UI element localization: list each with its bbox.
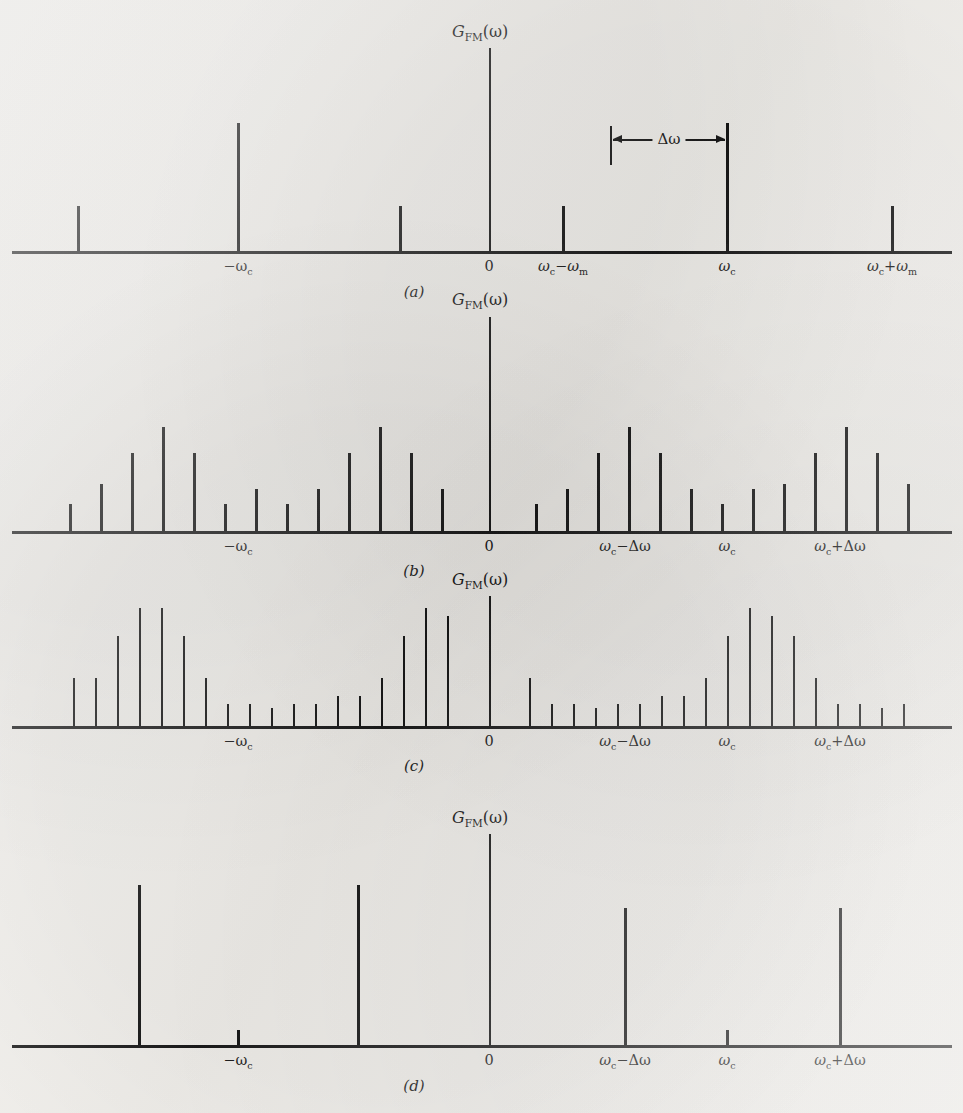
spectral-line bbox=[845, 427, 848, 531]
panel-c-baseline-axis bbox=[12, 726, 952, 729]
spectral-line bbox=[131, 453, 134, 531]
panel-b-baseline-axis bbox=[12, 531, 952, 534]
panel-a-vertical-axis bbox=[489, 48, 491, 253]
spectral-line bbox=[425, 608, 427, 726]
spectral-line bbox=[69, 504, 72, 531]
panel-b-spectrum: GFM(ω) −ωc 0 ωc−Δω ωc ωc+Δω (b) bbox=[0, 290, 963, 570]
panel-c-caption: (c) bbox=[404, 757, 424, 775]
panel-d-vertical-axis bbox=[489, 834, 491, 1047]
spectral-line bbox=[224, 504, 227, 531]
xtick-label-omega-c: ωc bbox=[718, 733, 735, 752]
spectral-line bbox=[73, 678, 75, 726]
xtick-label-omega-c-plus-delta: ωc+Δω bbox=[814, 1052, 866, 1071]
xtick-label-omega-c-minus-delta: ωc−Δω bbox=[599, 733, 651, 752]
spectral-line bbox=[227, 704, 229, 726]
spectral-line bbox=[814, 453, 817, 531]
xtick-label-omega-c-plus-omega-m: ωc+ωm bbox=[867, 258, 917, 277]
spectral-line bbox=[379, 427, 382, 531]
axis-tick bbox=[562, 244, 564, 253]
xtick-label-zero: 0 bbox=[484, 258, 493, 274]
measure-label: Δω bbox=[652, 130, 685, 148]
spectral-line bbox=[410, 453, 413, 531]
spectral-line bbox=[205, 678, 207, 726]
xtick-label-omega-c-minus-delta: ωc−Δω bbox=[599, 538, 651, 557]
spectral-line bbox=[95, 678, 97, 726]
spectral-line bbox=[529, 678, 531, 726]
spectral-line bbox=[403, 636, 405, 726]
panel-b-vertical-axis bbox=[489, 317, 491, 533]
spectral-line bbox=[162, 427, 165, 531]
spectral-line bbox=[783, 484, 786, 531]
spectral-line bbox=[183, 636, 185, 726]
spectral-line bbox=[293, 704, 295, 726]
spectral-line bbox=[359, 696, 361, 726]
spectral-line bbox=[139, 608, 141, 726]
spectral-line bbox=[161, 608, 163, 726]
xtick-label-zero: 0 bbox=[484, 1052, 493, 1068]
spectral-line bbox=[271, 708, 273, 726]
axis-tick bbox=[891, 244, 893, 253]
spectral-line bbox=[441, 489, 444, 531]
xtick-label-minus-omega-c: −ωc bbox=[223, 258, 252, 277]
spectral-line bbox=[317, 489, 320, 531]
panel-d-y-axis-label: GFM(ω) bbox=[452, 808, 508, 829]
spectral-line bbox=[815, 678, 817, 726]
spectral-line bbox=[859, 704, 861, 726]
xtick-label-minus-omega-c: −ωc bbox=[223, 538, 252, 557]
spectral-line bbox=[727, 636, 729, 726]
spectral-line bbox=[357, 885, 360, 1045]
xtick-label-omega-c-minus-delta: ωc−Δω bbox=[599, 1052, 651, 1071]
spectral-line bbox=[705, 678, 707, 726]
axis-tick bbox=[237, 244, 239, 253]
spectral-line bbox=[573, 704, 575, 726]
spectral-line bbox=[726, 123, 729, 251]
xtick-label-omega-c: ωc bbox=[718, 258, 735, 277]
spectral-line bbox=[249, 704, 251, 726]
xtick-label-minus-omega-c: −ωc bbox=[223, 733, 252, 752]
xtick-label-zero: 0 bbox=[484, 733, 493, 749]
panel-d-caption: (d) bbox=[403, 1077, 424, 1095]
panel-b-y-axis-label: GFM(ω) bbox=[452, 290, 508, 311]
spectral-line bbox=[793, 636, 795, 726]
spectral-line bbox=[749, 608, 751, 726]
xtick-label-omega-c-plus-delta: ωc+Δω bbox=[814, 733, 866, 752]
spectral-line bbox=[617, 704, 619, 726]
spectral-line bbox=[721, 504, 724, 531]
spectral-line bbox=[624, 908, 627, 1045]
spectral-line bbox=[661, 696, 663, 726]
axis-tick bbox=[77, 244, 79, 253]
spectral-line bbox=[881, 708, 883, 726]
measure-arrowhead-right bbox=[716, 135, 725, 143]
panel-a-spectrum: GFM(ω) Δω −ωc 0 ωc−ωm ωc ωc+ωm (a) bbox=[0, 0, 963, 290]
spectral-line bbox=[639, 704, 641, 726]
spectral-line bbox=[907, 484, 910, 531]
spectral-line bbox=[659, 453, 662, 531]
panel-d-spectrum: GFM(ω) −ωc 0 ωc−Δω ωc ωc+Δω (d) bbox=[0, 785, 963, 1113]
spectral-line bbox=[595, 708, 597, 726]
xtick-label-zero: 0 bbox=[484, 538, 493, 554]
panel-c-vertical-axis bbox=[489, 596, 491, 728]
panel-c-y-axis-label: GFM(ω) bbox=[452, 570, 508, 591]
panel-d-baseline-axis bbox=[12, 1045, 952, 1048]
spectral-line bbox=[255, 489, 258, 531]
axis-tick bbox=[726, 244, 728, 253]
xtick-label-omega-c: ωc bbox=[718, 538, 735, 557]
spectral-line bbox=[752, 489, 755, 531]
spectral-line bbox=[597, 453, 600, 531]
spectral-line bbox=[237, 1030, 240, 1045]
spectral-line bbox=[876, 453, 879, 531]
spectral-line bbox=[337, 696, 339, 726]
measure-arrowhead-left bbox=[613, 135, 622, 143]
spectral-line bbox=[100, 484, 103, 531]
measure-left-tick bbox=[610, 126, 612, 165]
spectral-line bbox=[193, 453, 196, 531]
xtick-label-minus-omega-c: −ωc bbox=[223, 1052, 252, 1071]
spectral-line bbox=[117, 636, 119, 726]
spectral-line bbox=[726, 1030, 729, 1045]
spectral-line bbox=[771, 616, 773, 726]
panel-a-y-axis-label: GFM(ω) bbox=[452, 22, 508, 43]
spectral-line bbox=[628, 427, 631, 531]
spectral-line bbox=[286, 504, 289, 531]
spectral-line bbox=[381, 678, 383, 726]
panel-a-baseline-axis bbox=[12, 251, 952, 254]
